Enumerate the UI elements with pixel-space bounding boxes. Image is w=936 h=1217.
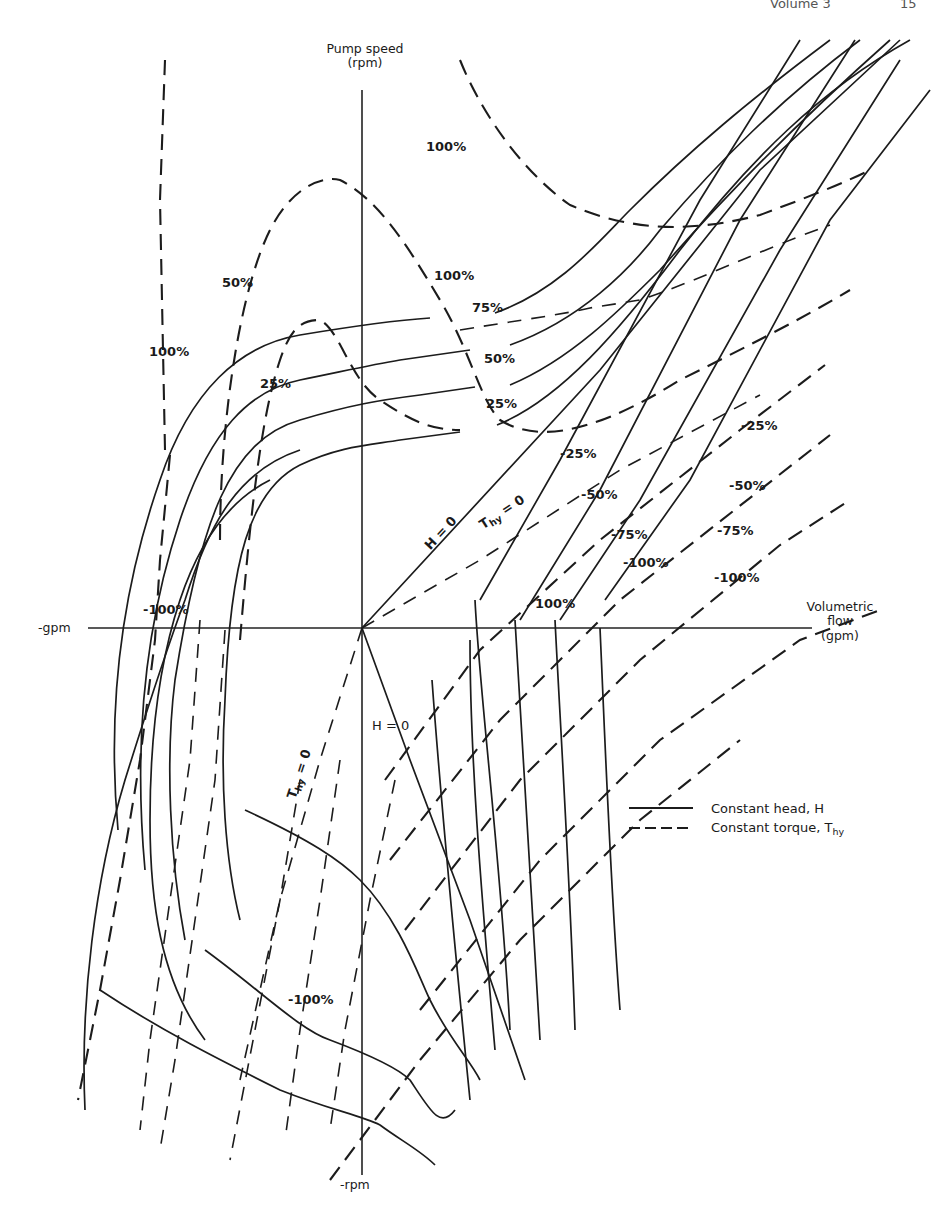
label-torque-neg25: -25% — [741, 419, 778, 432]
label-head-neg50: -50% — [581, 488, 618, 501]
label-head-25: 25% — [486, 397, 517, 410]
label-torque-100-left: 100% — [149, 345, 189, 358]
y-axis-unit: (rpm) — [305, 56, 425, 70]
label-head-neg25: -25% — [560, 447, 597, 460]
legend-item-torque: Constant torque, Thy — [627, 818, 844, 838]
legend-label-torque-text: Constant torque, T — [711, 820, 832, 835]
y-axis-negative-label: -rpm — [340, 1178, 370, 1192]
y-axis-top-label: Pump speed (rpm) — [305, 42, 425, 71]
label-head-100-lower: 100% — [535, 597, 575, 610]
x-axis-negative-label: -gpm — [38, 621, 71, 635]
legend-label-head: Constant head, H — [711, 801, 824, 816]
x-axis-title-2: flow — [795, 614, 885, 628]
x-axis-right-label: Volumetric flow (gpm) — [795, 600, 885, 643]
solid-line-swatch-icon — [627, 803, 695, 813]
label-torque-neg75: -75% — [717, 524, 754, 537]
y-axis-title: Pump speed — [305, 42, 425, 56]
legend: Constant head, H Constant torque, Thy — [627, 798, 844, 838]
label-head-neg75: -75% — [611, 528, 648, 541]
legend-item-head: Constant head, H — [627, 798, 844, 818]
label-torque-neg100: -100% — [714, 571, 760, 584]
label-torque-100-top: 100% — [426, 140, 466, 153]
label-head-50: 50% — [484, 352, 515, 365]
label-torque-50: 50% — [222, 276, 253, 289]
x-axis-title: Volumetric — [795, 600, 885, 614]
x-axis-unit: (gpm) — [795, 629, 885, 643]
label-head-neg100: -100% — [623, 556, 669, 569]
label-torque-neg50: -50% — [729, 479, 766, 492]
label-left-neg100: -100% — [143, 603, 189, 616]
label-h-zero-lower: H = 0 — [372, 718, 409, 733]
legend-label-torque: Constant torque, Thy — [711, 820, 844, 837]
label-head-75: 75% — [472, 301, 503, 314]
torque-curves — [78, 60, 880, 1180]
label-torque-25: 25% — [260, 377, 291, 390]
label-head-100: 100% — [434, 269, 474, 282]
label-bottom-neg100: -100% — [288, 993, 334, 1006]
legend-label-torque-sub: hy — [832, 826, 844, 837]
dashed-line-swatch-icon — [627, 823, 695, 833]
